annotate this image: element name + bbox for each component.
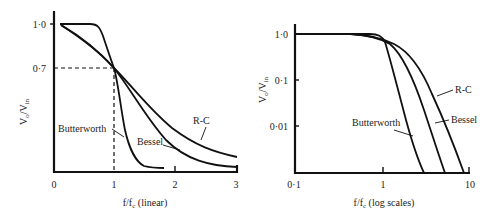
right-x-tick-label-01: 0·1 (287, 179, 300, 190)
left-pointer-rc (201, 127, 206, 140)
right-x-axis-label: f/fc (log scales) (354, 197, 415, 210)
right-pointer-bessel (435, 120, 449, 123)
left-chart: 1·0 0·7 0 1 2 3 f/fc (linear) Vo/Vin But… (18, 11, 239, 210)
right-pointer-rc (437, 90, 453, 96)
right-y-axis-label: Vo/Vin (257, 76, 270, 103)
left-label-bessel: Bessel (137, 136, 163, 147)
right-y-tick-label-01: 0·1 (275, 75, 288, 86)
right-y-tick-label-001: 0·01 (270, 121, 288, 132)
left-x-tick-label-2: 2 (173, 179, 178, 190)
right-curve-butterworth (295, 34, 424, 173)
right-y-tick-label-1: 1·0 (275, 29, 288, 40)
right-curve-bessel (295, 34, 445, 173)
right-x-tick-label-10: 10 (465, 179, 475, 190)
right-axes (295, 24, 470, 173)
right-label-butterworth: Butterworth (352, 117, 400, 128)
left-y-axis-label: Vo/Vin (18, 98, 31, 125)
left-y-tick-label-1: 1·0 (33, 19, 46, 30)
left-x-tick-label-1: 1 (112, 179, 117, 190)
right-x-tick-label-1: 1 (381, 179, 386, 190)
left-axes (54, 11, 237, 172)
right-label-rc: R-C (455, 84, 472, 95)
charts-svg: 1·0 0·7 0 1 2 3 f/fc (linear) Vo/Vin But… (0, 0, 503, 219)
right-label-bessel: Bessel (451, 114, 477, 125)
filter-response-figure: 1·0 0·7 0 1 2 3 f/fc (linear) Vo/Vin But… (0, 0, 503, 219)
left-x-axis-label: f/fc (linear) (123, 197, 168, 210)
left-x-tick-label-3: 3 (234, 179, 239, 190)
right-chart: 1·0 0·1 0·01 0·1 1 10 f/fc (log scales) … (257, 24, 477, 210)
left-label-rc: R-C (193, 115, 210, 126)
left-x-tick-label-0: 0 (52, 179, 57, 190)
left-label-butterworth: Butterworth (58, 123, 106, 134)
left-y-tick-label-07: 0·7 (33, 63, 46, 74)
